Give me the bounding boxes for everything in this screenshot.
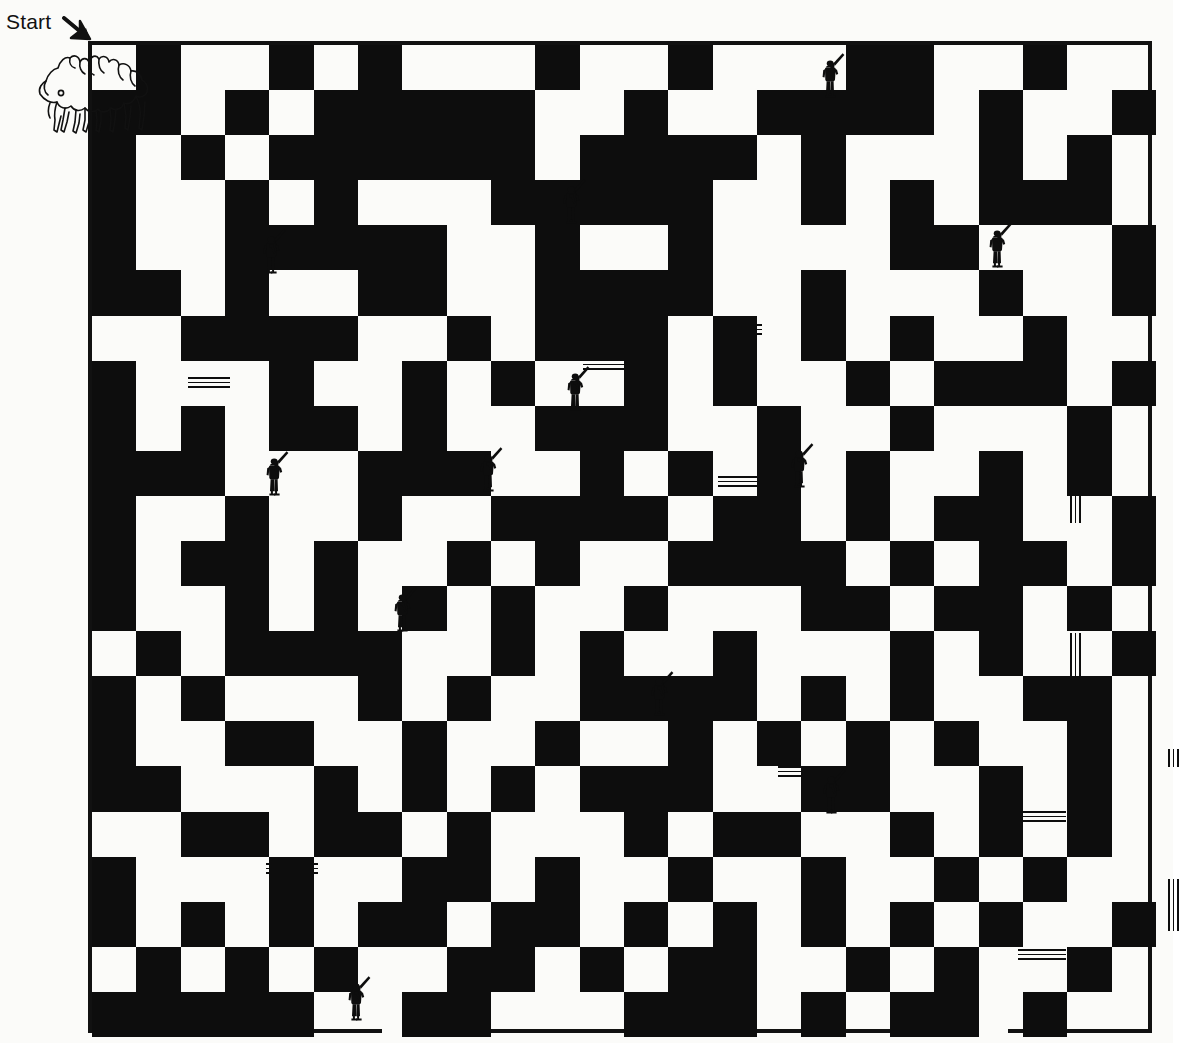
soldier-figure xyxy=(821,768,847,814)
soldier-figure xyxy=(261,228,287,274)
soldier-figure xyxy=(478,446,504,492)
soldier-figure xyxy=(565,365,591,411)
maze-bridge-connector xyxy=(1168,879,1179,931)
soldier-figure xyxy=(987,222,1013,268)
start-label: Start xyxy=(6,10,51,34)
soldier-figure xyxy=(561,178,587,224)
soldier-figure xyxy=(820,52,846,98)
soldier-figure xyxy=(346,975,372,1021)
arrow-down-right-icon xyxy=(60,12,96,44)
soldier-figure xyxy=(392,586,418,632)
soldier-figure xyxy=(789,442,815,488)
camel-caravan-outline-icon xyxy=(32,50,154,145)
maze-bridge-connector xyxy=(1168,749,1179,767)
soldier-figure xyxy=(649,670,675,716)
maze-frame xyxy=(88,41,1152,1033)
maze-soldiers-layer xyxy=(88,41,1152,1033)
soldier-figure xyxy=(264,450,290,496)
